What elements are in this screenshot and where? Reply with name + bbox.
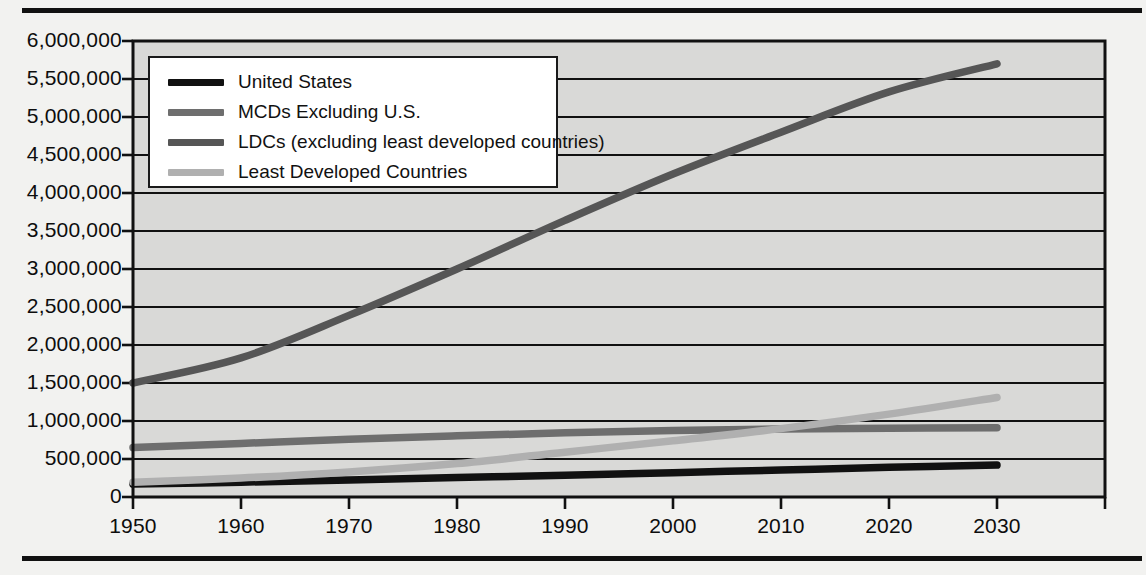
y-tick-label: 5,500,000	[4, 66, 122, 90]
x-tick-label: 2020	[849, 514, 929, 538]
x-tick-label: 1980	[417, 514, 497, 538]
legend-item: MCDs Excluding U.S.	[160, 97, 546, 127]
y-tick-label: 500,000	[4, 446, 122, 470]
y-tick-label: 2,000,000	[4, 332, 122, 356]
legend-swatch-icon	[168, 169, 224, 176]
x-tick-label: 2010	[741, 514, 821, 538]
y-tick-label: 3,000,000	[4, 256, 122, 280]
x-tick-label: 1950	[93, 514, 173, 538]
legend-item: LDCs (excluding least developed countrie…	[160, 127, 546, 157]
legend-swatch-icon	[168, 109, 224, 116]
x-tick-label: 1970	[309, 514, 389, 538]
y-tick-label: 2,500,000	[4, 294, 122, 318]
y-tick-label: 6,000,000	[4, 28, 122, 52]
legend-swatch-icon	[168, 139, 224, 146]
legend-item: United States	[160, 67, 546, 97]
legend-label: LDCs (excluding least developed countrie…	[238, 131, 604, 153]
legend-label: Least Developed Countries	[238, 161, 467, 183]
y-tick-label: 4,500,000	[4, 142, 122, 166]
x-tick-label: 2000	[633, 514, 713, 538]
y-tick-label: 1,000,000	[4, 408, 122, 432]
y-tick-label: 3,500,000	[4, 218, 122, 242]
y-tick-label: 0	[4, 484, 122, 508]
legend-swatch-icon	[168, 79, 224, 86]
legend-item: Least Developed Countries	[160, 157, 546, 187]
y-tick-label: 1,500,000	[4, 370, 122, 394]
x-tick-label: 1960	[201, 514, 281, 538]
chart-legend: United StatesMCDs Excluding U.S.LDCs (ex…	[148, 56, 558, 188]
y-tick-label: 5,000,000	[4, 104, 122, 128]
legend-label: MCDs Excluding U.S.	[238, 101, 421, 123]
y-tick-label: 4,000,000	[4, 180, 122, 204]
x-tick-label: 2030	[957, 514, 1037, 538]
legend-label: United States	[238, 71, 352, 93]
x-axis-ticks	[133, 497, 1105, 509]
x-tick-label: 1990	[525, 514, 605, 538]
y-axis-ticks	[122, 41, 133, 497]
chart-figure: 6,000,0005,500,0005,000,0004,500,0004,00…	[0, 0, 1146, 575]
